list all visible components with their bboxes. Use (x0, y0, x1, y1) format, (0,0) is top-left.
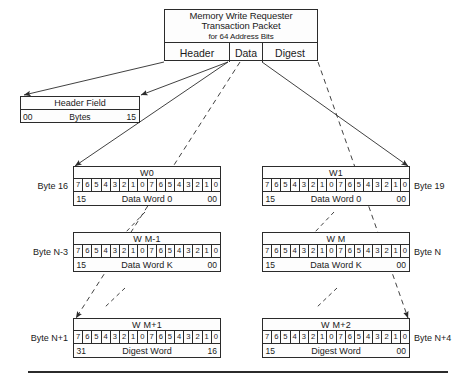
word-high: 00 (208, 194, 217, 204)
bit-cell-7: 0 (138, 179, 147, 191)
packet-title-line2: Transaction Packet (201, 21, 280, 32)
bit-cell-0: 7 (74, 179, 83, 191)
bit-cell-3: 4 (102, 179, 111, 191)
bit-cell-11: 4 (364, 331, 373, 343)
bit-cell-13: 2 (382, 179, 391, 191)
word-group-wm-plus1: W M+1 7654321076543210 31 Digest Word 16 (73, 318, 221, 358)
word-group-wm-plus2: W M+2 7654321076543210 15 Digest Word 00 (262, 318, 410, 358)
bit-cell-5: 2 (120, 245, 129, 257)
bit-cell-10: 5 (355, 331, 364, 343)
bit-cell-4: 3 (111, 331, 120, 343)
bit-cell-12: 3 (184, 245, 193, 257)
byte-label-wm: Byte N (414, 247, 441, 257)
word-name: W M (262, 232, 410, 245)
bit-cell-12: 3 (184, 179, 193, 191)
word-middle: Data Word 0 (74, 194, 220, 204)
word-value-row: 31 Digest Word 16 (73, 344, 221, 358)
word-value-row: 15 Data Word 0 00 (73, 192, 221, 206)
bit-cell-10: 5 (166, 245, 175, 257)
header-field-range: 00 Bytes 15 (21, 110, 139, 123)
bit-cell-8: 7 (337, 331, 346, 343)
bit-cell-12: 3 (373, 245, 382, 257)
bit-cell-14: 1 (203, 331, 212, 343)
bit-cell-0: 7 (263, 331, 272, 343)
bit-cell-14: 1 (392, 331, 401, 343)
bit-cell-9: 6 (346, 331, 355, 343)
bit-cell-1: 6 (272, 179, 281, 191)
bit-cell-2: 5 (92, 331, 101, 343)
bit-row: 7654321076543210 (262, 245, 410, 258)
byte-label-wm1: Byte N-3 (16, 247, 68, 257)
byte-label-wm-plus2: Byte N+4 (414, 333, 451, 343)
bit-cell-5: 2 (309, 179, 318, 191)
bit-cell-15: 0 (212, 179, 220, 191)
bit-cell-2: 5 (281, 179, 290, 191)
bit-cell-14: 1 (392, 245, 401, 257)
word-high: 00 (208, 260, 217, 270)
byte-label-w1: Byte 19 (414, 181, 445, 191)
bit-cell-1: 6 (83, 245, 92, 257)
bit-cell-8: 7 (148, 245, 157, 257)
bit-cell-5: 2 (309, 331, 318, 343)
bit-cell-9: 6 (346, 179, 355, 191)
bit-cell-6: 1 (129, 331, 138, 343)
bit-cell-15: 0 (401, 179, 409, 191)
dashed-continuation-right-upper (315, 212, 334, 232)
bit-cell-10: 5 (166, 179, 175, 191)
bit-cell-11: 4 (175, 179, 184, 191)
bit-cell-11: 4 (175, 331, 184, 343)
bit-cell-4: 3 (300, 245, 309, 257)
bit-cell-13: 2 (193, 331, 202, 343)
bit-cell-0: 7 (74, 331, 83, 343)
bit-cell-10: 5 (355, 179, 364, 191)
word-high: 00 (397, 346, 406, 356)
bit-cell-10: 5 (355, 245, 364, 257)
word-middle: Digest Word (74, 346, 220, 356)
packet-sections: Header Data Digest (165, 43, 317, 62)
bit-cell-13: 2 (193, 179, 202, 191)
packet-title-line3: for 64 Address Bits (208, 32, 273, 42)
bit-cell-15: 0 (212, 245, 220, 257)
bit-cell-8: 7 (337, 179, 346, 191)
word-group-wm: W M 7654321076543210 15 Data Word K 00 (262, 232, 410, 272)
bit-cell-0: 7 (263, 245, 272, 257)
bit-cell-1: 6 (83, 179, 92, 191)
bit-cell-11: 4 (364, 179, 373, 191)
word-name: W0 (73, 166, 221, 179)
header-field-box: Header Field 00 Bytes 15 (20, 96, 140, 123)
word-high: 16 (208, 346, 217, 356)
arrow-data-to-w1 (262, 62, 408, 166)
header-field-middle: Bytes (21, 112, 139, 122)
bit-cell-3: 4 (291, 245, 300, 257)
bit-cell-13: 2 (382, 331, 391, 343)
bit-row: 7654321076543210 (73, 245, 221, 258)
bit-cell-6: 1 (318, 331, 327, 343)
bit-cell-9: 6 (157, 245, 166, 257)
byte-label-w0: Byte 16 (20, 181, 68, 191)
bit-cell-15: 0 (401, 245, 409, 257)
bit-cell-11: 4 (175, 245, 184, 257)
bit-row: 7654321076543210 (262, 179, 410, 192)
word-high: 00 (397, 260, 406, 270)
header-field-high: 15 (127, 112, 136, 122)
bit-cell-9: 6 (157, 179, 166, 191)
bit-cell-3: 4 (291, 331, 300, 343)
packet-title: Memory Write Requester Transaction Packe… (165, 10, 317, 43)
bit-cell-1: 6 (272, 245, 281, 257)
bit-cell-7: 0 (327, 331, 336, 343)
dashed-continuation-right-lower (316, 288, 337, 308)
arrow-header-to-headerfield-left (24, 62, 164, 95)
word-group-wm1: W M-1 7654321076543210 15 Data Word K 00 (73, 232, 221, 272)
word-value-row: 15 Data Word K 00 (262, 258, 410, 272)
bit-cell-4: 3 (111, 179, 120, 191)
bit-row: 7654321076543210 (262, 331, 410, 344)
bit-cell-5: 2 (120, 179, 129, 191)
bit-cell-7: 0 (138, 245, 147, 257)
word-middle: Data Word K (263, 260, 409, 270)
bit-cell-2: 5 (281, 245, 290, 257)
bit-cell-7: 0 (327, 245, 336, 257)
bit-cell-2: 5 (281, 331, 290, 343)
bit-cell-3: 4 (291, 179, 300, 191)
word-middle: Data Word K (74, 260, 220, 270)
bit-cell-3: 4 (102, 245, 111, 257)
